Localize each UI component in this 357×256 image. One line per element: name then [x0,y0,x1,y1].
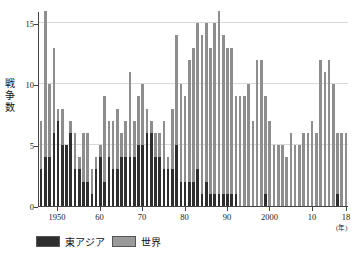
bar-2010[interactable] [311,121,314,206]
bar-segment-east-asia [91,194,94,206]
bar-1955[interactable] [78,157,81,206]
bar-1952[interactable] [65,145,68,206]
bar-2013[interactable] [324,72,327,206]
bar-1967[interactable] [129,72,132,206]
bar-1949[interactable] [53,48,56,206]
bar-1996[interactable] [252,121,255,206]
bar-1997[interactable] [256,60,259,206]
bar-1984[interactable] [201,35,204,206]
bar-segment-world [336,133,339,194]
bar-2015[interactable] [332,84,335,206]
bar-1957[interactable] [86,133,89,206]
bar-segment-east-asia [264,194,267,206]
bar-segment-world [124,121,127,158]
bar-segment-world [86,133,89,182]
bar-1972[interactable] [150,121,153,206]
bar-2008[interactable] [302,133,305,206]
bar-1954[interactable] [74,133,77,206]
bar-1969[interactable] [137,96,140,206]
bar-1953[interactable] [69,121,72,206]
bar-2004[interactable] [285,157,288,206]
bar-segment-world [163,121,166,170]
bar-1983[interactable] [196,23,199,206]
legend-item-world[interactable]: 世界 [112,234,161,249]
bar-1960[interactable] [99,145,102,206]
bar-segment-east-asia [129,157,132,206]
x-axis-tick-mark [269,207,270,211]
bar-1962[interactable] [108,121,111,206]
bar-1963[interactable] [112,121,115,206]
bar-2016[interactable] [336,133,339,206]
bar-1987[interactable] [213,23,216,206]
bar-1998[interactable] [260,60,263,206]
bar-1995[interactable] [247,84,250,206]
bar-1964[interactable] [116,109,119,207]
bar-segment-world [230,48,233,194]
bar-1981[interactable] [188,60,191,206]
bar-2012[interactable] [319,60,322,206]
bar-1990[interactable] [226,48,229,206]
bar-1956[interactable] [82,133,85,206]
bar-segment-world [340,133,343,206]
legend-item-east-asia[interactable]: 東アジア [36,234,105,249]
bar-segment-world [222,35,225,193]
bar-1977[interactable] [171,109,174,207]
bar-1979[interactable] [180,84,183,206]
x-axis-tick-mark [346,207,347,211]
bar-1989[interactable] [222,35,225,206]
bar-segment-east-asia [53,133,56,206]
bar-1974[interactable] [158,133,161,206]
bar-segment-world [235,96,238,194]
bar-1968[interactable] [133,121,136,206]
bar-1946[interactable] [40,121,43,206]
bar-1976[interactable] [167,157,170,206]
bar-1978[interactable] [175,35,178,206]
bar-1980[interactable] [184,96,187,206]
bar-1970[interactable] [141,84,144,206]
bar-2005[interactable] [290,133,293,206]
bar-1961[interactable] [103,96,106,206]
bar-segment-world [302,133,305,206]
bar-2000[interactable] [268,121,271,206]
bar-1993[interactable] [239,96,242,206]
bar-segment-world [298,145,301,206]
bar-1965[interactable] [120,133,123,206]
bar-2007[interactable] [298,145,301,206]
bar-1959[interactable] [95,157,98,206]
bar-1992[interactable] [235,96,238,206]
bar-1988[interactable] [218,11,221,206]
bar-1982[interactable] [192,48,195,206]
x-axis-tick-mark [142,207,143,211]
bar-2009[interactable] [307,133,310,206]
bar-2006[interactable] [294,145,297,206]
bar-segment-world [95,157,98,169]
bar-1999[interactable] [264,96,267,206]
bar-2001[interactable] [273,145,276,206]
bar-segment-world [273,145,276,206]
bar-2003[interactable] [281,145,284,206]
bar-1958[interactable] [91,169,94,206]
bar-1948[interactable] [48,84,51,206]
bar-1986[interactable] [209,48,212,206]
bar-segment-east-asia [205,182,208,206]
bar-1994[interactable] [243,96,246,206]
bar-2011[interactable] [315,133,318,206]
bar-1991[interactable] [230,48,233,206]
bar-segment-east-asia [213,194,216,206]
bar-2014[interactable] [328,60,331,206]
bar-segment-world [91,169,94,193]
bar-1971[interactable] [146,109,149,207]
bar-1985[interactable] [205,23,208,206]
bar-2018[interactable] [345,133,348,206]
bar-1950[interactable] [57,109,60,207]
bar-1975[interactable] [163,121,166,206]
bar-2017[interactable] [340,133,343,206]
bar-1966[interactable] [124,121,127,206]
bar-1947[interactable] [44,11,47,206]
bar-segment-east-asia [218,194,221,206]
y-axis-tick-mark [34,24,38,25]
bar-2002[interactable] [277,145,280,206]
bar-1973[interactable] [154,133,157,206]
x-axis-tick-label: 2000 [261,212,278,222]
bar-1951[interactable] [61,109,64,207]
